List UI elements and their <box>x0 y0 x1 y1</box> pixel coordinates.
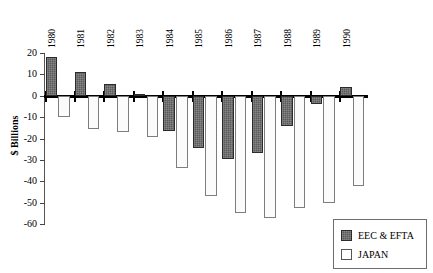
bar-eec-efta-1986 <box>222 96 234 159</box>
legend-label-eec-efta: EEC & EFTA <box>358 230 414 241</box>
x-tick-label-1981: 1981 <box>76 29 86 48</box>
bar-japan-1986 <box>235 96 247 214</box>
x-tick-label-1985: 1985 <box>194 29 204 48</box>
bar-eec-efta-1981 <box>75 72 87 96</box>
bar-eec-efta-1984 <box>163 96 175 131</box>
y-tick-label: 20 <box>27 48 37 58</box>
y-tick <box>40 224 45 225</box>
bar-japan-1985 <box>205 96 217 196</box>
chart-legend: EEC & EFTA JAPAN <box>333 219 427 269</box>
bar-japan-1983 <box>147 96 159 138</box>
bar-eec-efta-1987 <box>252 96 264 154</box>
x-tick-label-1983: 1983 <box>135 29 145 48</box>
bar-eec-efta-1983 <box>134 94 146 96</box>
x-tick-label-1987: 1987 <box>253 29 263 48</box>
bar-japan-1982 <box>117 96 129 132</box>
y-axis-label: $ Billions <box>9 101 20 171</box>
x-tick-label-1989: 1989 <box>312 29 322 48</box>
bar-japan-1980 <box>58 96 70 117</box>
bar-eec-efta-1988 <box>281 96 293 126</box>
legend-label-japan: JAPAN <box>358 249 388 260</box>
y-tick-label: -30 <box>24 155 37 165</box>
bar-japan-1988 <box>294 96 306 208</box>
bar-eec-efta-1990 <box>340 87 352 96</box>
x-tick-label-1984: 1984 <box>165 29 175 48</box>
bar-japan-1984 <box>176 96 188 169</box>
y-tick <box>40 181 45 182</box>
bar-japan-1989 <box>323 96 335 203</box>
y-tick-label: 0 <box>32 91 37 101</box>
x-tick-label-1986: 1986 <box>224 29 234 48</box>
bar-eec-efta-1982 <box>104 84 116 96</box>
bar-eec-efta-1989 <box>311 96 323 105</box>
y-tick-label: 10 <box>27 69 37 79</box>
y-tick-label: -40 <box>24 176 37 186</box>
legend-item-japan: JAPAN <box>341 245 426 264</box>
x-tick-label-1990: 1990 <box>342 29 352 48</box>
category-tick <box>133 91 135 102</box>
y-tick <box>40 139 45 140</box>
y-tick <box>40 160 45 161</box>
bar-japan-1987 <box>264 96 276 218</box>
bar-eec-efta-1980 <box>46 57 58 95</box>
y-tick <box>40 74 45 75</box>
x-tick-label-1982: 1982 <box>106 29 116 48</box>
legend-item-eec-efta: EEC & EFTA <box>341 226 426 245</box>
bar-japan-1981 <box>88 96 100 129</box>
y-tick-label: -20 <box>24 134 37 144</box>
y-tick-label: -60 <box>24 219 37 229</box>
legend-swatch-eec-efta <box>341 230 352 241</box>
y-tick <box>40 203 45 204</box>
y-tick-label: -10 <box>24 112 37 122</box>
bar-japan-1990 <box>353 96 365 186</box>
plot-area: 20100-10-20-30-40-50-60 1980198119821983… <box>44 53 368 224</box>
y-tick-label: -50 <box>24 198 37 208</box>
x-tick-label-1980: 1980 <box>47 29 57 48</box>
y-tick <box>40 117 45 118</box>
y-tick <box>40 53 45 54</box>
bar-chart: $ Billions 20100-10-20-30-40-50-60 19801… <box>0 0 433 273</box>
x-tick-label-1988: 1988 <box>283 29 293 48</box>
bar-eec-efta-1985 <box>193 96 205 148</box>
legend-swatch-japan <box>341 249 352 260</box>
